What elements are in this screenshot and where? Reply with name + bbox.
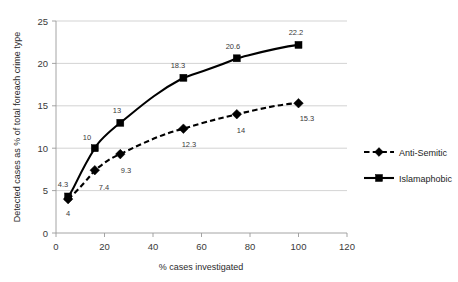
- y-axis-title: Detected cases as % of total foreach cri…: [12, 32, 22, 223]
- legend-marker-diamond-icon: [375, 148, 384, 157]
- y-tick-label-25: 25: [37, 16, 48, 27]
- series-antisemitic: 4 7.4 9.3 12.3 14 15.3: [63, 98, 314, 218]
- y-tick-label-0: 0: [43, 228, 48, 239]
- y-tick-label-15: 15: [37, 100, 48, 111]
- legend-item-islamaphobic[interactable]: Islamaphobic: [364, 174, 453, 184]
- islamaphobic-point-2: [91, 145, 98, 152]
- line-chart: 25 20 15 10 5 0 0 20 40 60 80 100 120 % …: [0, 0, 458, 282]
- y-tick-labels: 25 20 15 10 5 0: [37, 16, 48, 239]
- y-tick-label-20: 20: [37, 58, 48, 69]
- x-tick-label-0: 0: [53, 241, 58, 252]
- antisemitic-label-1: 4: [66, 209, 70, 218]
- islamaphobic-label-6: 22.2: [289, 28, 304, 37]
- antisemitic-label-5: 14: [237, 126, 245, 135]
- islamaphobic-point-6: [295, 41, 302, 48]
- chart-legend: Anti-Semitic Islamaphobic: [364, 148, 453, 184]
- islamaphobic-point-5: [233, 55, 240, 62]
- x-tick-label-80: 80: [245, 241, 256, 252]
- antisemitic-point-4: [179, 124, 189, 134]
- islamaphobic-point-3: [117, 119, 124, 126]
- y-tick-label-10: 10: [37, 143, 48, 154]
- antisemitic-point-6: [294, 98, 304, 108]
- x-tick-label-120: 120: [339, 241, 355, 252]
- islamaphobic-label-1: 4.3: [58, 180, 68, 189]
- axes: [52, 21, 347, 237]
- legend-marker-square-icon: [376, 175, 383, 182]
- antisemitic-label-3: 9.3: [121, 166, 131, 175]
- chart-container: 25 20 15 10 5 0 0 20 40 60 80 100 120 % …: [0, 0, 458, 282]
- legend-item-antisemitic[interactable]: Anti-Semitic: [364, 148, 448, 158]
- y-tick-label-5: 5: [43, 185, 48, 196]
- antisemitic-label-2: 7.4: [99, 183, 109, 192]
- islamaphobic-label-3: 13: [113, 106, 121, 115]
- islamaphobic-label-5: 20.6: [226, 42, 241, 51]
- islamaphobic-label-4: 18.3: [171, 61, 186, 70]
- x-tick-label-20: 20: [99, 241, 110, 252]
- x-tick-label-100: 100: [291, 241, 307, 252]
- legend-label-islamaphobic: Islamaphobic: [399, 174, 453, 184]
- x-axis-title: % cases investigated: [159, 262, 244, 272]
- x-tick-label-40: 40: [148, 241, 159, 252]
- legend-label-antisemitic: Anti-Semitic: [399, 148, 448, 158]
- x-tick-labels: 0 20 40 60 80 100 120: [53, 241, 355, 252]
- x-tick-label-60: 60: [196, 241, 207, 252]
- gridlines: [56, 21, 347, 191]
- islamaphobic-label-2: 10: [83, 133, 91, 142]
- islamaphobic-point-4: [180, 74, 187, 81]
- antisemitic-label-4: 12.3: [182, 140, 197, 149]
- antisemitic-point-5: [232, 109, 242, 119]
- antisemitic-point-3: [116, 149, 126, 159]
- antisemitic-label-6: 15.3: [300, 114, 315, 123]
